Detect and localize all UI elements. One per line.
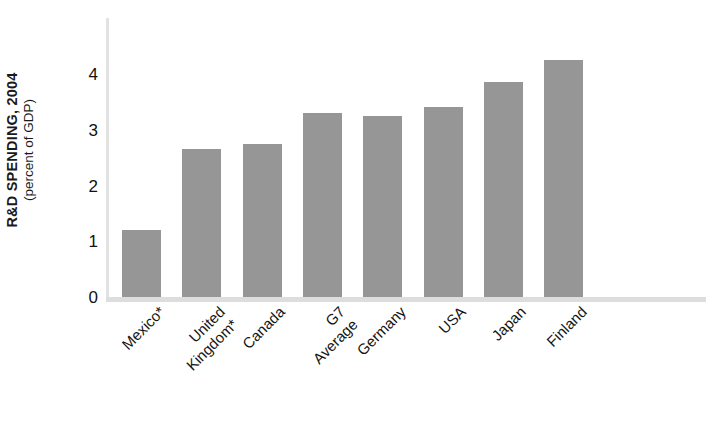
bar	[484, 82, 523, 297]
y-tick-label-2: 2	[72, 177, 98, 194]
y-tick-label-1: 1	[72, 233, 98, 250]
y-tick-label-3: 3	[72, 121, 98, 138]
bar-chart: R&D SPENDING, 2004 (percent of GDP) 0123…	[0, 0, 722, 422]
y-axis-title-sub: (percent of GDP)	[21, 99, 37, 201]
bar	[243, 144, 282, 297]
bar	[424, 107, 463, 297]
plot-area: 01234	[106, 18, 706, 300]
y-axis-title: R&D SPENDING, 2004 (percent of GDP)	[0, 0, 40, 300]
y-tick-label-4: 4	[72, 66, 98, 83]
bar	[303, 113, 342, 297]
bar	[363, 116, 402, 297]
x-axis-category-labels: Mexico*United Kingdom*CanadaG7 AverageGe…	[106, 303, 706, 422]
y-tick-label-0: 0	[72, 289, 98, 306]
bar-series	[106, 18, 706, 300]
y-axis-ticks: 01234	[72, 18, 98, 300]
bar	[182, 149, 221, 297]
bar	[544, 60, 583, 297]
bar	[122, 230, 161, 297]
y-axis-title-main: R&D SPENDING, 2004	[4, 72, 21, 227]
